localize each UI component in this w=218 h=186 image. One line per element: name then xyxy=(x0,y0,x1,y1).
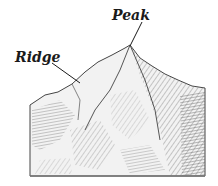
ridge-leader-line xyxy=(52,63,80,83)
peak-label: Peak xyxy=(112,8,150,22)
mountain-illustration xyxy=(0,0,218,186)
peak-leader-line xyxy=(130,22,142,46)
ridge-label: Ridge xyxy=(15,50,60,64)
